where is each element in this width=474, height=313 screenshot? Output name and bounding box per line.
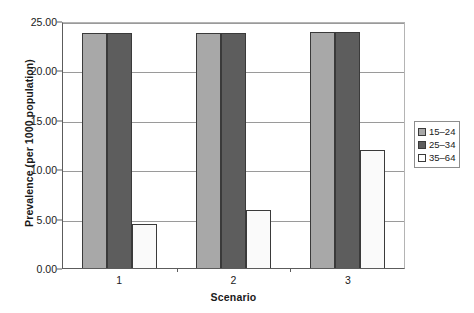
plot-area [62, 22, 405, 269]
x-axis-title: Scenario [62, 291, 405, 303]
x-axis-tick-label: 1 [99, 274, 139, 286]
y-axis-tick-label: 25.00 [0, 16, 57, 28]
y-axis-tick-mark [57, 219, 62, 220]
x-axis-tick-mark [177, 268, 178, 272]
bar[interactable] [335, 32, 360, 268]
y-axis-tick-mark [57, 120, 62, 121]
chart-legend: 15–2425–3435–64 [414, 121, 460, 168]
bar-chart-figure: Prevalence (per 1000 population) 0.005.0… [0, 0, 474, 313]
legend-item[interactable]: 15–24 [418, 125, 455, 138]
legend-swatch-icon [418, 128, 426, 136]
y-axis-tick-label: 10.00 [0, 164, 57, 176]
bar-group [177, 23, 291, 268]
y-axis-tick-mark [57, 71, 62, 72]
y-axis-tick-mark [57, 269, 62, 270]
y-axis-tick-label: 0.00 [0, 263, 57, 275]
bar[interactable] [360, 150, 385, 268]
y-axis-tick-label: 5.00 [0, 214, 57, 226]
legend-item-label: 35–64 [429, 152, 455, 163]
x-axis-tick-label: 3 [328, 274, 368, 286]
bar[interactable] [310, 32, 335, 268]
bar-group [290, 23, 404, 268]
legend-item-label: 15–24 [429, 126, 455, 137]
legend-swatch-icon [418, 141, 426, 149]
bar[interactable] [221, 33, 246, 268]
x-axis-tick-label: 2 [214, 274, 254, 286]
x-axis-tick-mark [290, 268, 291, 272]
y-axis-tick-mark [57, 170, 62, 171]
y-axis-tick-label: 15.00 [0, 115, 57, 127]
y-axis-tick-mark [57, 22, 62, 23]
bar[interactable] [196, 33, 221, 268]
legend-item[interactable]: 35–64 [418, 151, 455, 164]
bar[interactable] [82, 33, 107, 268]
y-axis-tick-label: 20.00 [0, 65, 57, 77]
bar-groups-container [63, 23, 404, 268]
bar[interactable] [107, 33, 132, 268]
legend-item[interactable]: 25–34 [418, 138, 455, 151]
bar-group [63, 23, 177, 268]
bar[interactable] [132, 224, 157, 268]
bar[interactable] [246, 210, 271, 268]
y-axis-title: Prevalence (per 1000 population) [23, 18, 35, 268]
legend-swatch-icon [418, 154, 426, 162]
legend-item-label: 25–34 [429, 139, 455, 150]
